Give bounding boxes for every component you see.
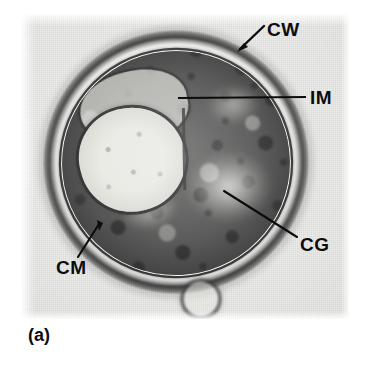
extracellular-vesicle [184,282,218,316]
figure-panel-a: CW IM CG CM (a) [0,0,367,367]
label-im: IM [310,88,332,107]
bacterial-cell [43,30,309,294]
label-cm: CM [56,258,87,277]
panel-caption: (a) [28,325,50,346]
label-cg: CG [300,235,330,254]
label-cw: CW [267,20,300,39]
